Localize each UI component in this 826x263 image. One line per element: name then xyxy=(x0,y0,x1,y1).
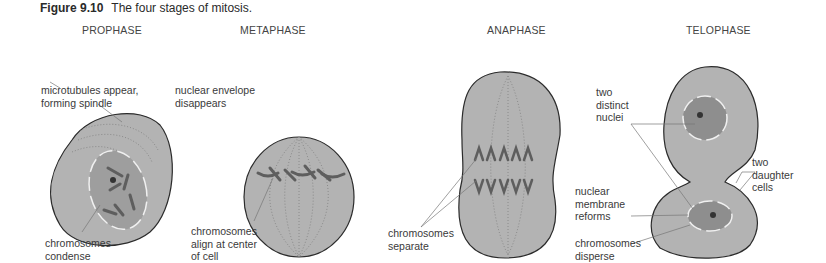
prophase-cell xyxy=(51,114,173,246)
label-two-distinct-nuclei: two distinct nuclei xyxy=(596,86,629,124)
label-microtubules: microtubules appear, forming spindle xyxy=(41,84,138,109)
label-nuclear-envelope: nuclear envelope disappears xyxy=(175,84,255,109)
telophase-cells xyxy=(651,67,758,259)
label-chromosomes-disperse: chromosomes disperse xyxy=(575,237,641,262)
label-nuclear-membrane-reforms: nuclear membrane reforms xyxy=(575,185,625,223)
mitosis-illustration xyxy=(0,0,826,263)
metaphase-cell xyxy=(244,137,354,257)
label-chromosomes-condense: chromosomes condense xyxy=(45,237,111,262)
label-chromosomes-separate: chromosomes separate xyxy=(388,227,454,252)
label-two-daughter-cells: two daughter cells xyxy=(752,156,793,194)
anaphase-cell xyxy=(459,72,560,258)
label-chromosomes-align: chromosomes align at center of cell xyxy=(191,225,257,263)
